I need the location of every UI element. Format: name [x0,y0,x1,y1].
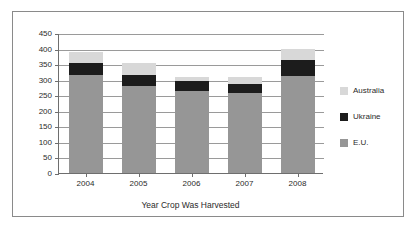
y-tick-mark [55,34,59,35]
bar-segment-australia[interactable] [281,49,315,60]
y-tick-mark [55,143,59,144]
bar-segment-ukraine[interactable] [122,75,156,86]
legend-item-ukraine[interactable]: Ukraine [340,112,415,121]
x-tick-label: 2007 [225,179,265,188]
legend-item-eu[interactable]: E.U. [340,138,415,147]
x-axis-title: Year Crop Was Harvested [58,200,323,210]
y-tick-label: 50 [43,154,52,162]
legend-label: Australia [353,86,384,95]
bar-segment-australia[interactable] [175,77,209,82]
bar-group[interactable] [228,33,262,173]
y-tick-mark [55,158,59,159]
chart-frame: 050100150200250300350400450 200420052006… [12,11,404,217]
y-tick-label: 250 [39,92,52,100]
x-tick-mark [298,173,299,177]
y-tick-label: 0 [48,170,52,178]
bar-group[interactable] [122,33,156,173]
bar-group[interactable] [281,33,315,173]
bar-segment-eu[interactable] [228,93,262,173]
legend-swatch [340,87,348,95]
bar-segment-eu[interactable] [175,91,209,173]
y-tick-label: 400 [39,46,52,54]
bar-segment-eu[interactable] [122,86,156,173]
x-tick-label: 2006 [172,179,212,188]
x-tick-label: 2004 [66,179,106,188]
y-tick-mark [55,174,59,175]
x-tick-mark [86,173,87,177]
x-tick-mark [139,173,140,177]
y-tick-label: 350 [39,61,52,69]
x-tick-mark [192,173,193,177]
y-tick-mark [55,65,59,66]
legend-swatch [340,139,348,147]
y-tick-mark [55,81,59,82]
chart-figure: 050100150200250300350400450 200420052006… [0,0,417,233]
x-tick-label: 2008 [278,179,318,188]
bar-segment-eu[interactable] [69,75,103,173]
bar-segment-australia[interactable] [69,52,103,63]
y-tick-mark [55,112,59,113]
x-tick-label: 2005 [119,179,159,188]
y-tick-label: 300 [39,77,52,85]
legend-label: Ukraine [353,112,381,121]
x-tick-mark [245,173,246,177]
bar-segment-australia[interactable] [228,77,262,84]
bar-segment-ukraine[interactable] [228,84,262,93]
bar-segment-ukraine[interactable] [281,60,315,76]
y-tick-mark [55,96,59,97]
chart-legend: AustraliaUkraineE.U. [340,86,415,164]
bar-segment-ukraine[interactable] [69,63,103,75]
y-tick-mark [55,127,59,128]
legend-label: E.U. [353,138,369,147]
y-tick-label: 100 [39,139,52,147]
bar-segment-ukraine[interactable] [175,81,209,90]
y-tick-label: 450 [39,30,52,38]
y-tick-label: 150 [39,123,52,131]
bar-group[interactable] [175,33,209,173]
bar-segment-australia[interactable] [122,63,156,75]
y-tick-mark [55,50,59,51]
plot-area: 050100150200250300350400450 200420052006… [58,34,323,174]
bar-segment-eu[interactable] [281,76,315,173]
legend-swatch [340,113,348,121]
y-tick-label: 200 [39,108,52,116]
bar-group[interactable] [69,33,103,173]
legend-item-australia[interactable]: Australia [340,86,415,95]
